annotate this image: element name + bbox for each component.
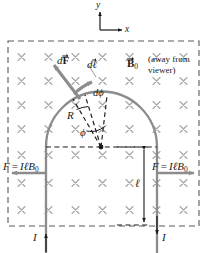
right-force-F: F — [152, 160, 159, 172]
dl-vector-symbol: ℓ — [93, 59, 98, 70]
dF-letter: F — [63, 54, 70, 66]
B-subscript: 0 — [134, 62, 138, 71]
B0-vector-symbol: B — [127, 58, 134, 69]
right-force-equals: = — [161, 160, 167, 172]
current-loop-wire — [46, 92, 157, 253]
field-symbol-label: B0 — [127, 58, 138, 71]
radius-line-dphi — [85, 95, 101, 147]
left-force-subscript: 0 — [35, 165, 39, 174]
x-axis-label: x — [125, 25, 129, 35]
dphi-label: dϕ — [93, 88, 104, 99]
left-force-equals: = — [12, 160, 18, 172]
B-letter: B — [127, 57, 134, 69]
phi-angle-label: ϕ — [80, 127, 86, 138]
dl-letter: ℓ — [93, 58, 98, 70]
physics-figure: y x dF dℓ B0 (away from viewer) dϕ R ϕ ℓ… — [0, 0, 210, 253]
current-direction-arrows — [46, 216, 157, 252]
field-note-line2: viewer) — [148, 66, 175, 75]
right-current-label: I — [162, 232, 166, 243]
right-force-B: B — [177, 160, 184, 172]
coordinate-axes — [100, 12, 122, 30]
left-force-B: B — [28, 160, 35, 172]
ell-length-label: ℓ — [135, 178, 140, 190]
field-note-line1: (away from — [148, 55, 190, 64]
right-force-label: F=IℓB0 — [152, 161, 188, 174]
dF-label: dF — [57, 55, 69, 66]
y-axis-label: y — [96, 1, 100, 11]
dF-vector-symbol: F — [63, 55, 70, 66]
left-current-label: I — [33, 232, 37, 243]
arc-center-point — [99, 145, 104, 150]
figure-canvas — [0, 0, 210, 253]
left-force-F: F — [3, 160, 10, 172]
left-force-label: F=IℓB0 — [3, 161, 39, 174]
dl-label: dℓ — [87, 59, 97, 70]
radius-label: R — [67, 110, 74, 121]
magnetic-field-cross-markers — [18, 54, 187, 214]
dphi-symbol: ϕ — [98, 87, 103, 98]
right-force-subscript: 0 — [184, 165, 188, 174]
